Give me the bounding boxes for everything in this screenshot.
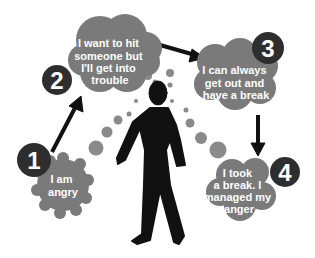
step-number: 2 [50,67,63,94]
step-number: 3 [261,35,274,62]
step-number: 1 [27,147,40,174]
anger-diagram: I want to hit someone but I'll get into … [0,0,315,258]
step-1: I am angry 1 [17,143,94,219]
walking-person-icon [117,81,185,244]
step-text: I can always get out and have a break [202,64,270,101]
step-2: I want to hit someone but I'll get into … [42,14,162,95]
step-text: I am angry [48,173,79,198]
step-3: I can always get out and have a break 3 [194,32,284,110]
step-number: 4 [278,159,292,186]
step-4: I took a break. I managed my anger 4 [204,157,300,221]
